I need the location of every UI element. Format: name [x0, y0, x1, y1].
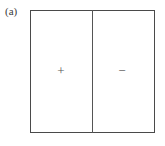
plus-sign: +: [47, 64, 75, 77]
capacitor-divider-line: [92, 10, 93, 133]
figure-panel: (a) + −: [0, 0, 165, 146]
panel-label: (a): [5, 5, 17, 18]
minus-sign: −: [108, 64, 136, 77]
